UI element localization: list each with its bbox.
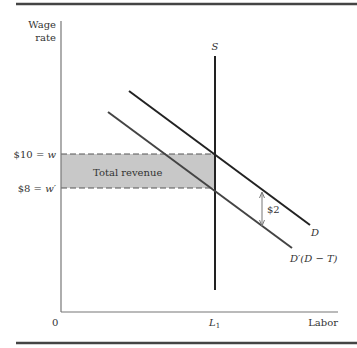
y-axis-label-line2: rate xyxy=(35,32,56,43)
demand-d-prime-label: D′(D − T) xyxy=(289,253,338,264)
x-axis-label: Labor xyxy=(308,317,338,328)
demand-d-label: D xyxy=(310,227,319,238)
y-tick-w-prime: $8 = w′ xyxy=(18,183,57,194)
gap-label: $2 xyxy=(267,204,280,215)
total-revenue-label: Total revenue xyxy=(93,167,162,178)
y-tick-w: $10 = w xyxy=(14,149,57,160)
origin-label: 0 xyxy=(52,317,58,328)
y-axis-label-line1: Wage xyxy=(28,19,56,30)
x-tick-l1: L1 xyxy=(208,317,220,330)
wage-tax-chart: Wage rate $10 = w $8 = w′ Total revenue … xyxy=(0,0,357,348)
supply-label: S xyxy=(212,41,219,52)
